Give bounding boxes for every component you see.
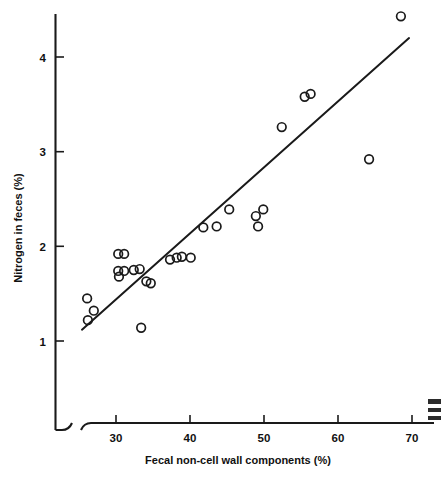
page-edge-marks bbox=[428, 399, 441, 420]
regression-line-group bbox=[82, 38, 409, 330]
edge-mark-3 bbox=[428, 416, 441, 420]
y-axis: 4 3 2 1 Nitrogen in feces (%) bbox=[12, 14, 64, 430]
data-point bbox=[259, 205, 268, 214]
data-point bbox=[365, 155, 374, 164]
data-point bbox=[277, 123, 286, 132]
y-ticklabel-1: 1 bbox=[40, 336, 47, 348]
scatter-plot-figure: 4 3 2 1 Nitrogen in feces (%) 30 40 50 6… bbox=[0, 0, 444, 482]
y-axis-title: Nitrogen in feces (%) bbox=[12, 173, 24, 283]
x-ticklabel-70: 70 bbox=[406, 432, 419, 444]
data-point bbox=[90, 306, 99, 315]
data-point bbox=[83, 294, 92, 303]
x-ticklabel-60: 60 bbox=[332, 432, 345, 444]
x-ticklabel-30: 30 bbox=[110, 432, 123, 444]
data-point bbox=[120, 267, 129, 276]
x-axis-break-stub bbox=[56, 423, 73, 430]
data-point bbox=[135, 265, 144, 274]
regression-line bbox=[82, 38, 409, 330]
data-point bbox=[397, 12, 406, 21]
data-point bbox=[225, 205, 234, 214]
y-ticklabel-2: 2 bbox=[40, 241, 46, 253]
data-point bbox=[186, 253, 195, 262]
data-point bbox=[137, 323, 146, 332]
data-point-layer bbox=[83, 12, 405, 332]
plot-svg: 4 3 2 1 Nitrogen in feces (%) 30 40 50 6… bbox=[0, 0, 444, 482]
data-point bbox=[199, 223, 208, 232]
y-ticklabel-4: 4 bbox=[40, 52, 47, 64]
data-point bbox=[252, 212, 261, 221]
x-axis: 30 40 50 60 70 Fecal non-cell wall compo… bbox=[56, 415, 435, 466]
y-ticklabel-3: 3 bbox=[40, 146, 46, 158]
data-point bbox=[178, 252, 187, 261]
edge-mark-2 bbox=[428, 408, 441, 412]
x-ticklabel-50: 50 bbox=[258, 432, 271, 444]
x-ticklabel-40: 40 bbox=[184, 432, 197, 444]
data-point bbox=[115, 272, 124, 281]
data-point bbox=[120, 250, 129, 259]
x-axis-title: Fecal non-cell wall components (%) bbox=[145, 454, 331, 466]
x-axis-line bbox=[81, 423, 434, 430]
data-point bbox=[254, 222, 263, 231]
edge-mark-1 bbox=[428, 399, 441, 404]
data-point bbox=[212, 222, 221, 231]
